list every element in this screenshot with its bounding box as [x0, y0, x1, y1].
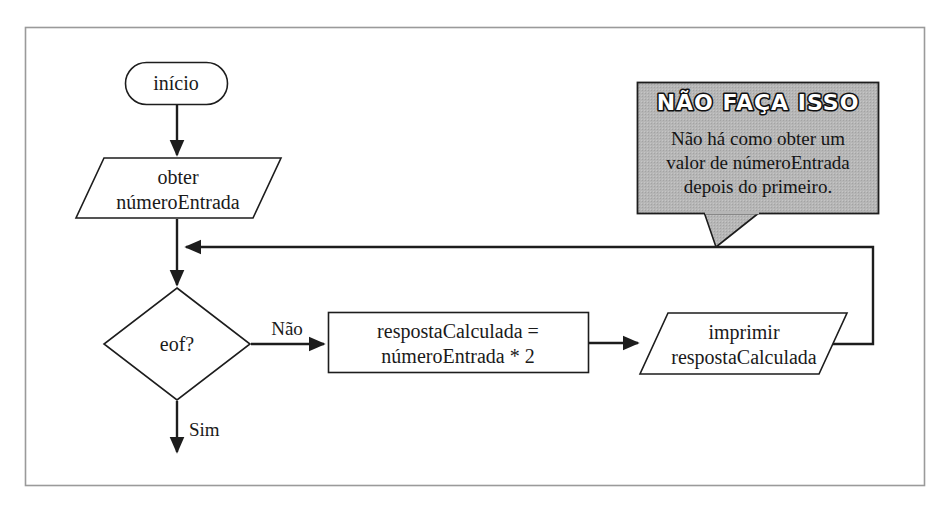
- edge-label-sim: Sim: [189, 419, 220, 440]
- input-label-line2: númeroEntrada: [116, 191, 239, 213]
- start-label: início: [153, 72, 199, 94]
- process-label-line1: respostaCalculada =: [377, 320, 539, 343]
- callout-body-line-2: valor de númeroEntrada: [666, 152, 850, 173]
- output-label-line1: imprimir: [708, 321, 779, 344]
- decision-label: eof?: [160, 333, 195, 355]
- node-start: início: [126, 63, 228, 105]
- flowchart-figure: início obter númeroEntrada eof? Não Sim …: [0, 0, 948, 509]
- edge-label-nao: Não: [271, 318, 303, 339]
- node-input: obter númeroEntrada: [76, 158, 281, 218]
- process-label-line2: númeroEntrada * 2: [381, 345, 534, 367]
- node-process: respostaCalculada = númeroEntrada * 2: [329, 313, 589, 373]
- input-label-line1: obter: [157, 166, 198, 188]
- node-output: imprimir respostaCalculada: [640, 313, 847, 374]
- callout-body-line-1: Não há como obter um: [671, 128, 845, 149]
- output-label-line2: respostaCalculada: [671, 346, 817, 369]
- callout-title: NÃO FAÇA ISSO: [657, 90, 860, 115]
- callout-body-line-3: depois do primeiro.: [684, 176, 832, 197]
